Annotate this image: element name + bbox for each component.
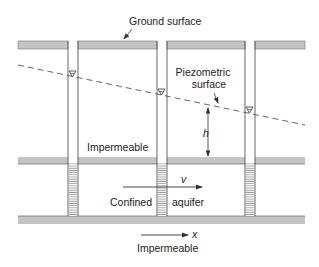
piezometric-surface-label-line2: surface [192, 78, 227, 90]
well-1 [68, 41, 78, 216]
upper-impermeable-label: Impermeable [87, 141, 148, 153]
well-3 [245, 41, 255, 216]
x-axis-label: x [191, 228, 198, 240]
aquifer-diagram: Ground surface Piezometric surface h Imp… [0, 0, 319, 267]
piezometric-surface-label-line1: Piezometric [176, 66, 231, 78]
well-screen [69, 164, 77, 216]
ground-surface-leader-arrow [124, 29, 132, 39]
velocity-label: v [181, 173, 187, 185]
lower-impermeable-label: Impermeable [137, 242, 198, 254]
ground-surface-label: Ground surface [129, 15, 202, 27]
well-screen [158, 164, 166, 216]
water-level-triangle-icon [246, 107, 253, 113]
lower-impermeable-band [18, 216, 305, 224]
head-label: h [203, 127, 209, 139]
piezometric-leader-arrow [214, 93, 218, 103]
well-screen [246, 164, 254, 216]
well-2 [157, 41, 167, 216]
upper-confining-band [18, 157, 305, 164]
aquifer-label-left: Confined [110, 196, 152, 208]
ground-surface-band [18, 41, 305, 49]
aquifer-label-right: aquifer [172, 196, 205, 208]
